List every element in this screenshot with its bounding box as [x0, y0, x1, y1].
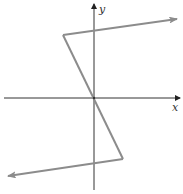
middle-segment: [63, 35, 123, 159]
x-axis-label: x: [172, 102, 178, 113]
origin-point: [93, 97, 95, 99]
y-axis-label: y: [99, 4, 105, 15]
upper-ray: [63, 19, 177, 35]
lower-ray: [8, 159, 123, 176]
graph-canvas: y x: [0, 0, 183, 194]
graph-svg: [0, 0, 183, 194]
